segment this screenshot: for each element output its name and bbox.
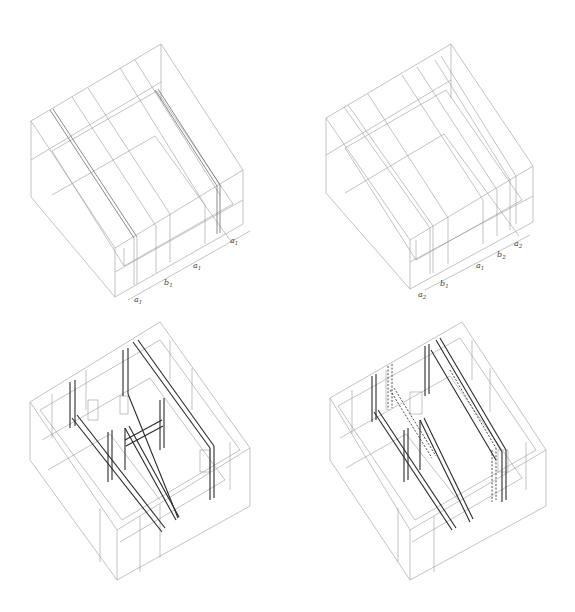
bay-diagram-top-right: a2 b1 a1 b2 a2 <box>290 0 575 310</box>
svg-text:a1: a1 <box>134 295 142 305</box>
structure-drawing-bottom-right <box>290 310 575 612</box>
svg-text:a2: a2 <box>418 290 427 300</box>
svg-text:a1: a1 <box>193 261 201 271</box>
bay-diagram-top-left: a1 b1 a1 a1 <box>0 0 290 310</box>
svg-text:b1: b1 <box>440 279 449 289</box>
svg-text:a1: a1 <box>230 236 238 246</box>
svg-text:a1: a1 <box>476 261 484 271</box>
svg-text:b1: b1 <box>164 278 173 288</box>
svg-text:a2: a2 <box>514 239 523 249</box>
structural-frame <box>372 338 506 530</box>
axonometric-top-right: a2 b1 a1 b2 a2 <box>290 0 575 310</box>
svg-text:b2: b2 <box>497 250 506 260</box>
axonometric-top-left: a1 b1 a1 a1 <box>0 0 290 310</box>
structure-drawing-bottom-left <box>0 310 290 612</box>
dimension-labels: a2 b1 a1 b2 a2 <box>418 239 523 300</box>
axonometric-bottom-left <box>0 310 290 612</box>
axonometric-bottom-right <box>290 310 575 612</box>
